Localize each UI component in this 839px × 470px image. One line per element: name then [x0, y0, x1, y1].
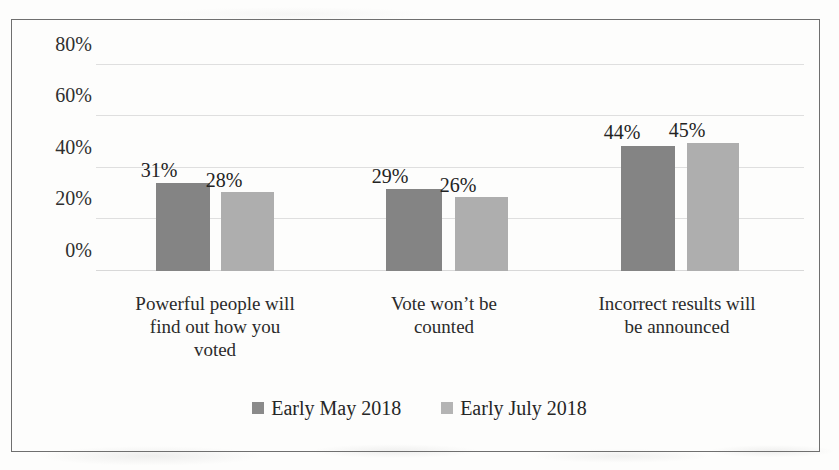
gridline-80 — [96, 64, 804, 65]
data-label-early-july-powerful-people: 28% — [197, 170, 251, 190]
data-label-early-july-incorrect-results: 45% — [660, 120, 714, 140]
legend-item-early-july[interactable]: Early July 2018 — [441, 398, 587, 418]
y-axis-tick-0: 0% — [14, 240, 92, 260]
legend-item-early-may[interactable]: Early May 2018 — [252, 398, 401, 418]
x-axis-label-powerful-people: Powerful people will find out how you vo… — [95, 292, 335, 362]
data-label-early-may-powerful-people: 31% — [132, 160, 186, 180]
bar-early-may-vote-not-counted[interactable] — [386, 189, 442, 271]
legend-swatch-early-may-icon — [252, 402, 264, 414]
bar-early-july-vote-not-counted[interactable] — [455, 197, 508, 271]
y-axis-tick-60: 60% — [14, 85, 92, 105]
legend-swatch-early-july-icon — [441, 402, 453, 414]
y-axis-tick-40: 40% — [14, 137, 92, 157]
data-label-early-july-vote-not-counted: 26% — [431, 175, 485, 195]
plot-area — [96, 44, 804, 271]
bar-early-may-incorrect-results[interactable] — [621, 146, 675, 271]
legend-label-early-july: Early July 2018 — [460, 398, 587, 418]
bar-early-may-powerful-people[interactable] — [156, 183, 210, 271]
y-axis-tick-80: 80% — [14, 34, 92, 54]
chart-legend: Early May 2018 Early July 2018 — [0, 398, 839, 418]
x-axis-label-vote-not-counted: Vote won’t be counted — [336, 292, 552, 338]
y-axis: 80% 60% 40% 20% 0% — [10, 44, 92, 271]
legend-label-early-may: Early May 2018 — [271, 398, 401, 418]
bar-early-july-powerful-people[interactable] — [221, 192, 274, 271]
bar-early-july-incorrect-results[interactable] — [687, 143, 739, 271]
data-label-early-may-incorrect-results: 44% — [594, 122, 650, 142]
gridline-60 — [96, 115, 804, 116]
y-axis-tick-20: 20% — [14, 188, 92, 208]
chart-screenshot: 80% 60% 40% 20% 0% 31% 28% 29% 26% 44% 4… — [0, 0, 839, 470]
x-axis-label-incorrect-results: Incorrect results will be announced — [557, 292, 797, 338]
data-label-early-may-vote-not-counted: 29% — [362, 166, 418, 186]
